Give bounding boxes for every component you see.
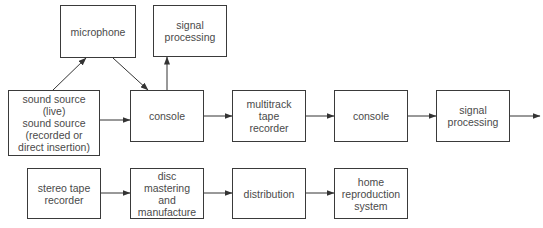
signal-processing-label-top: signal processing — [165, 19, 216, 43]
arrow-microphone-to-console — [113, 58, 148, 90]
microphone-label: microphone — [71, 26, 126, 38]
home-reproduction-system-label: home reproduction system — [342, 176, 400, 212]
signal-processing-box-2: signal processing — [436, 90, 510, 142]
multitrack-tape-recorder-label: multitrack tape recorder — [247, 98, 292, 134]
distribution-box: distribution — [232, 168, 306, 219]
disc-mastering-label: disc mastering and manufacture — [138, 170, 196, 218]
console-box-2: console — [334, 90, 408, 142]
signal-processing-label-2: signal processing — [448, 104, 499, 128]
stereo-tape-recorder-label: stereo tape recorder — [38, 182, 91, 206]
distribution-label: distribution — [244, 188, 295, 200]
microphone-box: microphone — [60, 5, 136, 58]
signal-flow-diagram: microphone signal processing sound sourc… — [0, 0, 543, 228]
disc-mastering-box: disc mastering and manufacture — [130, 168, 204, 219]
console-box-1: console — [130, 90, 204, 142]
signal-processing-box-top: signal processing — [153, 5, 227, 57]
console-label-1: console — [149, 110, 185, 122]
console-label-2: console — [353, 110, 389, 122]
multitrack-tape-recorder-box: multitrack tape recorder — [232, 90, 306, 142]
sound-source-label: sound source (live) sound source (record… — [18, 93, 90, 153]
home-reproduction-system-box: home reproduction system — [334, 168, 408, 219]
sound-source-box: sound source (live) sound source (record… — [8, 90, 100, 156]
stereo-tape-recorder-box: stereo tape recorder — [27, 168, 101, 219]
arrow-sound-source-to-microphone — [53, 58, 86, 90]
